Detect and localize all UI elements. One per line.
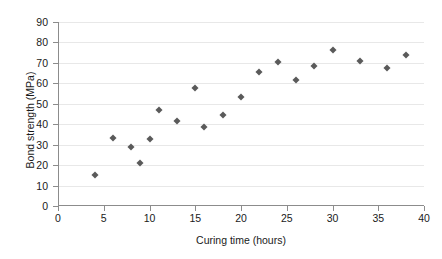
y-tick-70 bbox=[53, 63, 58, 64]
y-tick-label-90: 90 bbox=[8, 17, 48, 28]
x-tick-25 bbox=[287, 206, 288, 211]
y-tick-20 bbox=[53, 165, 58, 166]
y-tick-90 bbox=[53, 22, 58, 23]
y-tick-label-70: 70 bbox=[8, 58, 48, 69]
y-axis-line bbox=[58, 22, 59, 206]
x-tick-label-40: 40 bbox=[409, 213, 439, 224]
y-tick-60 bbox=[53, 83, 58, 84]
gridline-y-20 bbox=[58, 165, 424, 166]
x-tick-35 bbox=[378, 206, 379, 211]
x-tick-30 bbox=[333, 206, 334, 211]
x-tick-10 bbox=[150, 206, 151, 211]
x-tick-label-20: 20 bbox=[226, 213, 256, 224]
x-tick-label-25: 25 bbox=[272, 213, 302, 224]
x-tick-20 bbox=[241, 206, 242, 211]
y-tick-80 bbox=[53, 42, 58, 43]
gridline-y-10 bbox=[58, 186, 424, 187]
gridline-y-40 bbox=[58, 124, 424, 125]
x-tick-label-15: 15 bbox=[180, 213, 210, 224]
x-tick-5 bbox=[104, 206, 105, 211]
y-tick-label-50: 50 bbox=[8, 99, 48, 110]
y-tick-50 bbox=[53, 104, 58, 105]
x-axis-title: Curing time (hours) bbox=[58, 234, 424, 246]
x-tick-15 bbox=[195, 206, 196, 211]
plot-area bbox=[58, 22, 424, 206]
y-tick-label-0: 0 bbox=[8, 201, 48, 212]
y-tick-40 bbox=[53, 124, 58, 125]
y-tick-label-10: 10 bbox=[8, 181, 48, 192]
x-tick-label-30: 30 bbox=[318, 213, 348, 224]
y-tick-label-40: 40 bbox=[8, 119, 48, 130]
gridline-y-30 bbox=[58, 145, 424, 146]
x-tick-40 bbox=[424, 206, 425, 211]
x-tick-label-5: 5 bbox=[89, 213, 119, 224]
gridline-y-60 bbox=[58, 83, 424, 84]
y-tick-label-20: 20 bbox=[8, 160, 48, 171]
gridline-y-70 bbox=[58, 63, 424, 64]
x-tick-label-10: 10 bbox=[135, 213, 165, 224]
gridline-y-90 bbox=[58, 22, 424, 23]
gridline-y-80 bbox=[58, 42, 424, 43]
y-tick-label-30: 30 bbox=[8, 140, 48, 151]
y-tick-10 bbox=[53, 186, 58, 187]
x-tick-label-0: 0 bbox=[43, 213, 73, 224]
x-tick-label-35: 35 bbox=[363, 213, 393, 224]
x-tick-0 bbox=[58, 206, 59, 211]
y-tick-label-60: 60 bbox=[8, 78, 48, 89]
gridline-y-50 bbox=[58, 104, 424, 105]
y-tick-30 bbox=[53, 145, 58, 146]
scatter-chart-figure: Bond strength (MPa) Curing time (hours) … bbox=[0, 0, 442, 259]
y-tick-label-80: 80 bbox=[8, 37, 48, 48]
